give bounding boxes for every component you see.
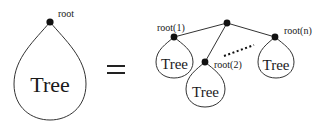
big-tree-label: Tree <box>30 72 70 97</box>
root1-label: root(1) <box>157 22 185 34</box>
ellipsis-dotted-line <box>224 45 254 56</box>
parent-node <box>224 20 231 27</box>
root1-node <box>171 34 178 41</box>
rootn-label: root(n) <box>284 25 312 37</box>
edge-to-rootn <box>227 23 275 37</box>
subtree-n-label: Tree <box>263 57 290 73</box>
equals-sign <box>107 65 125 74</box>
big-root-node <box>46 18 53 25</box>
big-root-label: root <box>58 8 74 19</box>
subtree-1-label: Tree <box>161 56 188 72</box>
tree-diagram: root Tree root(1) Tree root(2) Tree <box>0 0 326 125</box>
root2-node <box>202 59 209 66</box>
rootn-node <box>272 34 279 41</box>
root2-label: root(2) <box>214 59 242 71</box>
composite-tree: root(1) Tree root(2) Tree root(n) Tree <box>156 20 312 107</box>
subtree-2-label: Tree <box>192 84 219 100</box>
big-tree: root Tree <box>14 8 86 120</box>
big-tree-outline <box>14 22 86 120</box>
diagram-svg: root Tree root(1) Tree root(2) Tree <box>0 0 326 125</box>
edge-to-root2 <box>205 23 227 62</box>
